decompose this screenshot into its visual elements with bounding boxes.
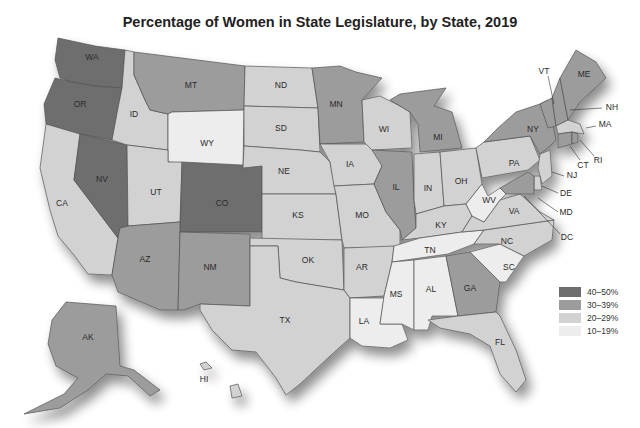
label-nm: NM — [203, 262, 216, 272]
label-pa: PA — [509, 158, 520, 168]
legend-item: 20–29% — [559, 311, 618, 324]
legend-swatch — [559, 326, 581, 336]
us-map: WA OR CA NV ID MT WY UT CO AZ NM ND SD N… — [0, 0, 640, 428]
label-tn: TN — [424, 245, 435, 255]
label-me: ME — [578, 69, 591, 79]
label-mi: MI — [433, 132, 442, 142]
state-co[interactable] — [180, 162, 262, 232]
legend-swatch — [559, 300, 581, 310]
label-ky: KY — [435, 220, 447, 230]
label-in: IN — [424, 183, 433, 193]
label-id: ID — [130, 109, 139, 119]
legend-swatch — [559, 287, 581, 297]
state-me[interactable] — [560, 50, 606, 120]
legend-label: 40–50% — [587, 287, 618, 297]
legend-label: 30–39% — [587, 300, 618, 310]
leader-de — [542, 186, 558, 193]
label-az: AZ — [140, 254, 151, 264]
state-hi-island[interactable] — [200, 362, 212, 370]
label-wa: WA — [85, 52, 99, 62]
label-ga: GA — [464, 283, 477, 293]
leader-ct — [570, 146, 580, 160]
label-ut: UT — [150, 187, 161, 197]
label-il: IL — [392, 182, 399, 192]
label-mt: MT — [185, 80, 197, 90]
label-nc: NC — [501, 236, 513, 246]
label-wy: WY — [200, 138, 214, 148]
label-mn: MN — [329, 99, 342, 109]
label-fl: FL — [495, 337, 505, 347]
label-ca: CA — [56, 198, 68, 208]
label-vt: VT — [539, 66, 550, 76]
label-nh: NH — [606, 102, 618, 112]
label-wi: WI — [379, 124, 389, 134]
label-co: CO — [216, 198, 229, 208]
label-or: OR — [74, 99, 87, 109]
legend: 40–50% 30–39% 20–29% 10–19% — [559, 285, 618, 337]
label-sc: SC — [503, 262, 515, 272]
label-ma: MA — [599, 119, 612, 129]
label-nd: ND — [275, 80, 287, 90]
label-ms: MS — [390, 289, 403, 299]
label-tx: TX — [280, 315, 291, 325]
legend-swatch — [559, 313, 581, 323]
label-hi: HI — [200, 374, 209, 384]
legend-item: 30–39% — [559, 298, 618, 311]
legend-label: 20–29% — [587, 313, 618, 323]
label-ks: KS — [292, 210, 304, 220]
state-ak[interactable] — [24, 302, 160, 414]
label-sd: SD — [275, 123, 287, 133]
label-ny: NY — [527, 124, 539, 134]
state-hi[interactable] — [230, 384, 242, 398]
leader-ri — [580, 140, 594, 156]
label-ia: IA — [346, 159, 354, 169]
legend-item: 10–19% — [559, 324, 618, 337]
label-ct: CT — [577, 160, 588, 170]
label-wv: WV — [482, 195, 496, 205]
label-al: AL — [426, 284, 437, 294]
state-az[interactable] — [112, 222, 180, 310]
label-md: MD — [559, 207, 572, 217]
label-oh: OH — [455, 176, 468, 186]
label-nj: NJ — [567, 170, 577, 180]
label-ri: RI — [594, 155, 603, 165]
label-nv: NV — [96, 174, 108, 184]
legend-item: 40–50% — [559, 285, 618, 298]
label-dc: DC — [561, 232, 573, 242]
state-ri[interactable] — [572, 132, 578, 144]
label-va: VA — [509, 206, 520, 216]
label-ne: NE — [278, 166, 290, 176]
state-md[interactable] — [500, 172, 534, 194]
leader-md — [538, 198, 558, 212]
label-ar: AR — [356, 262, 368, 272]
state-pa[interactable] — [476, 136, 540, 178]
leader-nj — [552, 172, 564, 176]
legend-label: 10–19% — [587, 326, 618, 336]
label-de: DE — [560, 188, 572, 198]
label-ak: AK — [82, 332, 94, 342]
leader-ma — [586, 126, 596, 128]
state-fl[interactable] — [428, 312, 526, 392]
label-la: LA — [359, 316, 370, 326]
label-ok: OK — [302, 255, 315, 265]
label-mo: MO — [355, 210, 369, 220]
state-ct[interactable] — [558, 132, 572, 148]
